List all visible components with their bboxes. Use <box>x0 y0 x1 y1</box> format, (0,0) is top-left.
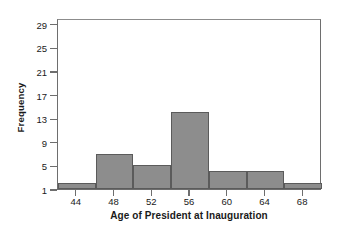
histogram-bar <box>96 154 134 189</box>
bars-group <box>58 20 320 189</box>
y-tick-label: 25 <box>27 43 47 54</box>
y-tick-label: 17 <box>27 90 47 101</box>
histogram-bar <box>133 165 171 189</box>
y-tick-label: 9 <box>27 137 47 148</box>
x-tick-label: 68 <box>289 196 315 207</box>
plot-area <box>57 19 321 190</box>
x-tick-label: 60 <box>214 196 240 207</box>
y-tick-label: 21 <box>27 67 47 78</box>
histogram-bar <box>284 183 322 189</box>
y-tick-mark <box>50 48 57 49</box>
y-tick-label: 5 <box>27 161 47 172</box>
histogram-bar <box>247 171 285 189</box>
x-tick-label: 48 <box>101 196 127 207</box>
y-tick-mark <box>50 189 57 190</box>
y-tick-mark <box>50 71 57 72</box>
y-tick-label: 29 <box>27 19 47 30</box>
y-axis-title: Frequency <box>14 52 28 162</box>
histogram-bar <box>209 171 247 189</box>
x-tick-label: 44 <box>63 196 89 207</box>
histogram-figure: Frequency 1591317212529 44485256606468 A… <box>0 0 341 233</box>
y-tick-label: 1 <box>27 185 47 196</box>
y-tick-mark <box>50 166 57 167</box>
y-tick-mark <box>50 119 57 120</box>
y-tick-mark <box>50 24 57 25</box>
y-axis-title-label: Frequency <box>16 82 27 132</box>
histogram-bar <box>58 183 96 189</box>
y-tick-mark <box>50 95 57 96</box>
x-tick-label: 64 <box>251 196 277 207</box>
x-axis-title: Age of President at Inauguration <box>57 210 321 221</box>
y-tick-label: 13 <box>27 114 47 125</box>
x-tick-label: 52 <box>138 196 164 207</box>
histogram-bar <box>171 112 209 189</box>
y-tick-mark <box>50 142 57 143</box>
x-tick-label: 56 <box>176 196 202 207</box>
